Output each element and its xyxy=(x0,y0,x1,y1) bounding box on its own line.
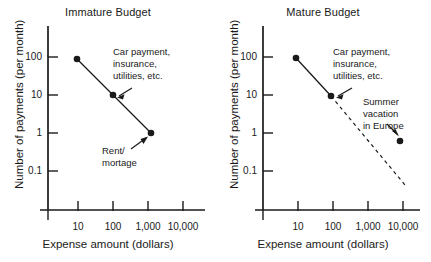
data-point-100-10 xyxy=(110,92,117,99)
annotation-arrow-car-payment xyxy=(336,88,352,100)
data-point-1000-1 xyxy=(148,130,155,137)
chart-panel-immature-budget: Immature Budget Number of payments (per … xyxy=(0,0,216,262)
series-payments-line xyxy=(296,58,331,96)
data-point-8-90 xyxy=(293,55,300,62)
series-trend-extrapolation xyxy=(331,96,405,185)
data-point-summer-vacation xyxy=(397,138,404,145)
annotation-arrow-summer-vacation xyxy=(387,124,399,137)
plot-area xyxy=(0,0,216,262)
annotation-arrow-rent-mortage xyxy=(131,137,148,150)
figure-two-log-log-charts: Immature Budget Number of payments (per … xyxy=(0,0,431,262)
annotation-arrow-car-payment xyxy=(117,88,132,100)
chart-panel-mature-budget: Mature Budget Number of payments (per mo… xyxy=(215,0,431,262)
data-point-8-90 xyxy=(74,56,81,63)
plot-area xyxy=(215,0,431,262)
